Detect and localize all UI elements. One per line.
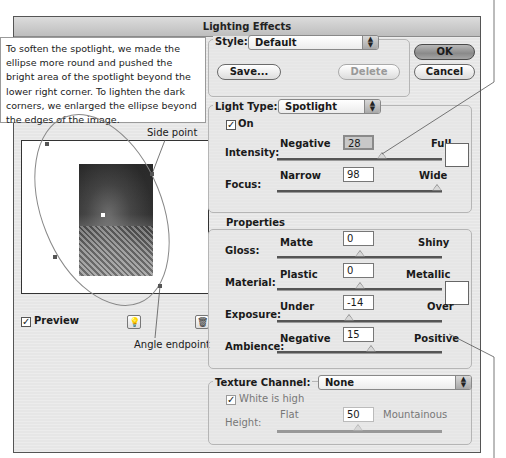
material-max-label: Metallic bbox=[406, 269, 450, 280]
side-point-label: Side point bbox=[147, 127, 197, 138]
trash-icon: 🗑 bbox=[197, 317, 208, 327]
new-light-button[interactable]: 💡 bbox=[127, 315, 141, 329]
exposure-slider-thumb[interactable] bbox=[344, 314, 354, 321]
ambience-slider-thumb[interactable] bbox=[366, 345, 376, 352]
exposure-label: Exposure: bbox=[225, 309, 281, 320]
angle-endpoint-label: Angle endpoint bbox=[134, 339, 210, 350]
focus-max-label: Wide bbox=[419, 170, 447, 181]
material-input[interactable]: 0 bbox=[343, 263, 374, 278]
preview-label: Preview bbox=[34, 315, 79, 326]
preview-canvas[interactable] bbox=[21, 140, 209, 294]
ambience-min-label: Negative bbox=[280, 333, 331, 344]
dropdown-arrows-icon: ▲▼ bbox=[455, 376, 471, 389]
preview-image bbox=[79, 164, 153, 276]
exposure-max-label: Over bbox=[427, 301, 454, 312]
delete-button[interactable]: Delete bbox=[338, 64, 400, 80]
gloss-min-label: Matte bbox=[280, 237, 313, 248]
height-input[interactable]: 50 bbox=[343, 407, 374, 422]
ambience-max-label: Positive bbox=[414, 333, 459, 344]
white-is-high-checkbox[interactable]: ✓ bbox=[226, 395, 236, 405]
intensity-min-label: Negative bbox=[280, 138, 331, 149]
light-type-label: Light Type: bbox=[213, 101, 279, 112]
focus-input[interactable]: 98 bbox=[343, 167, 374, 182]
material-label: Material: bbox=[225, 277, 276, 288]
exposure-slider[interactable] bbox=[277, 320, 442, 323]
focus-label: Focus: bbox=[225, 179, 261, 190]
focus-slider[interactable] bbox=[277, 190, 442, 193]
height-label: Height: bbox=[225, 417, 261, 428]
focus-slider-thumb[interactable] bbox=[432, 184, 442, 191]
material-min-label: Plastic bbox=[280, 269, 318, 280]
save-button[interactable]: Save... bbox=[217, 64, 281, 80]
style-label: Style: bbox=[213, 36, 250, 47]
light-on-checkbox[interactable]: ✓ bbox=[226, 120, 236, 130]
intensity-input[interactable]: 28 bbox=[343, 135, 374, 150]
material-slider-thumb[interactable] bbox=[355, 282, 365, 289]
light-color-swatch[interactable] bbox=[445, 143, 469, 167]
style-dropdown[interactable]: Default ▲▼ bbox=[248, 35, 379, 50]
white-is-high-label: White is high bbox=[239, 393, 304, 404]
texture-channel-dropdown[interactable]: None ▲▼ bbox=[318, 375, 472, 390]
gloss-max-label: Shiny bbox=[418, 237, 449, 248]
ambience-label: Ambience: bbox=[225, 341, 284, 352]
exposure-input[interactable]: -14 bbox=[343, 295, 374, 310]
height-slider-thumb[interactable] bbox=[353, 424, 363, 431]
ambience-input[interactable]: 15 bbox=[343, 327, 374, 342]
gloss-label: Gloss: bbox=[225, 245, 259, 256]
intensity-slider-thumb[interactable] bbox=[377, 152, 387, 159]
dialog-title: Lighting Effects bbox=[14, 17, 480, 37]
light-bulb-icon: 💡 bbox=[129, 317, 140, 327]
height-max-label: Mountainous bbox=[383, 409, 447, 420]
focus-min-label: Narrow bbox=[280, 170, 321, 181]
gloss-slider-thumb[interactable] bbox=[355, 250, 365, 257]
ok-button[interactable]: OK bbox=[414, 44, 475, 60]
height-min-label: Flat bbox=[280, 409, 299, 420]
texture-channel-label: Texture Channel: bbox=[213, 377, 312, 388]
intensity-label: Intensity: bbox=[225, 147, 279, 158]
annotation-callout: To soften the spotlight, we made the ell… bbox=[0, 37, 206, 123]
intensity-slider[interactable] bbox=[277, 158, 442, 161]
cancel-button[interactable]: Cancel bbox=[414, 64, 475, 80]
light-on-label: On bbox=[238, 118, 254, 129]
dropdown-arrows-icon: ▲▼ bbox=[362, 36, 378, 49]
properties-title: Properties bbox=[226, 217, 285, 228]
gloss-input[interactable]: 0 bbox=[343, 231, 374, 246]
ambience-slider[interactable] bbox=[277, 351, 442, 354]
delete-light-button[interactable]: 🗑 bbox=[195, 315, 209, 329]
light-type-dropdown[interactable]: Spotlight ▲▼ bbox=[278, 99, 381, 114]
dropdown-arrows-icon: ▲▼ bbox=[364, 100, 380, 113]
preview-checkbox[interactable]: ✓ bbox=[21, 317, 31, 327]
exposure-min-label: Under bbox=[280, 301, 314, 312]
